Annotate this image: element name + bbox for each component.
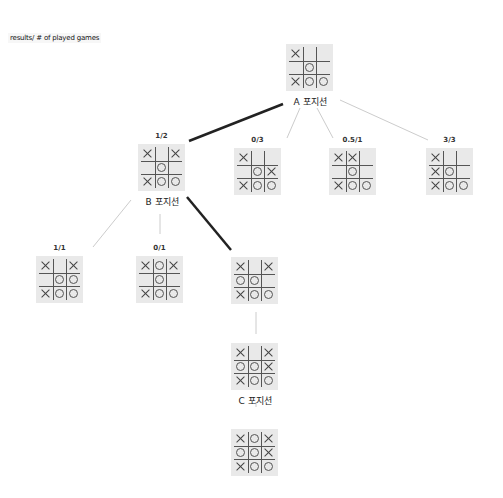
board-C1 [231,429,278,476]
board-cell [53,259,67,273]
board-cell [264,151,278,165]
board-B2 [136,256,183,303]
board-cell [346,151,360,165]
board-cell [316,74,330,88]
board-cell [289,47,303,61]
board-cell [234,446,248,460]
board-cell [289,74,303,88]
o-mark-icon [253,167,262,176]
board-cell [346,178,360,192]
board-cell [261,260,275,274]
tic-tac-toe-grid [289,47,330,88]
board-cell [248,346,262,360]
score-label: 0/1 [136,244,183,252]
x-mark-icon [264,262,273,271]
o-mark-icon [250,362,259,371]
board-cell [443,151,457,165]
board-cell [248,360,262,374]
board-cell [39,273,53,287]
o-mark-icon [250,290,259,299]
board-cell [429,165,443,179]
board-cell [234,373,248,387]
board-cell [168,174,182,188]
o-mark-icon [169,289,178,298]
score-label: 3/3 [426,136,473,144]
board-cell [53,273,67,287]
score-label: 1/1 [36,244,83,252]
board-cell [168,161,182,175]
board-cell [166,286,180,300]
x-mark-icon [236,262,245,271]
x-mark-icon [334,153,343,162]
o-mark-icon [157,177,166,186]
board-cell [429,178,443,192]
o-mark-icon [264,376,273,385]
score-label: 0/3 [234,136,281,144]
board-cell [303,47,317,61]
o-mark-icon [55,289,64,298]
board-A3 [329,148,376,195]
o-mark-icon [250,462,259,471]
board-cell [248,260,262,274]
board-cell [359,151,373,165]
o-mark-icon [236,276,245,285]
x-mark-icon [264,448,273,457]
tic-tac-toe-grid [332,151,373,192]
board-cell [251,151,265,165]
board-cell [443,178,457,192]
o-mark-icon [171,177,180,186]
board-C [231,343,278,390]
board-cell [155,174,169,188]
board-cell [261,446,275,460]
board-cell [141,161,155,175]
board-cell [456,178,470,192]
tic-tac-toe-grid [139,259,180,300]
o-mark-icon [305,63,314,72]
o-mark-icon [250,276,259,285]
board-cell [248,459,262,473]
x-mark-icon [141,261,150,270]
x-mark-icon [69,261,78,270]
x-mark-icon [291,49,300,58]
x-mark-icon [348,153,357,162]
board-cell [261,274,275,288]
o-mark-icon [250,434,259,443]
o-mark-icon [348,167,357,176]
board-cell [234,260,248,274]
board-cell [248,432,262,446]
board-cell [261,360,275,374]
board-cell [316,47,330,61]
board-cell [237,165,251,179]
board-cell [153,259,167,273]
board-cell [332,151,346,165]
score-label: 0.5/1 [329,136,376,144]
board-cell [316,61,330,75]
board-B1 [36,256,83,303]
board-cell [234,360,248,374]
board-cell [155,161,169,175]
x-mark-icon [239,181,248,190]
board-cell [248,287,262,301]
board-cell [168,147,182,161]
x-mark-icon [239,153,248,162]
board-B3 [231,257,278,304]
board-cell [248,373,262,387]
o-mark-icon [459,181,468,190]
tic-tac-toe-grid [39,259,80,300]
board-cell [139,259,153,273]
o-mark-icon [69,289,78,298]
board-cell [66,273,80,287]
tic-tac-toe-grid [429,151,470,192]
x-mark-icon [41,289,50,298]
board-cell [237,178,251,192]
o-mark-icon [445,167,454,176]
board-cell [66,259,80,273]
position-label: C 포지션 [215,394,295,407]
board-cell [359,165,373,179]
x-mark-icon [236,462,245,471]
board-cell [289,61,303,75]
o-mark-icon [253,181,262,190]
x-mark-icon [236,434,245,443]
board-cell [234,274,248,288]
o-mark-icon [155,261,164,270]
